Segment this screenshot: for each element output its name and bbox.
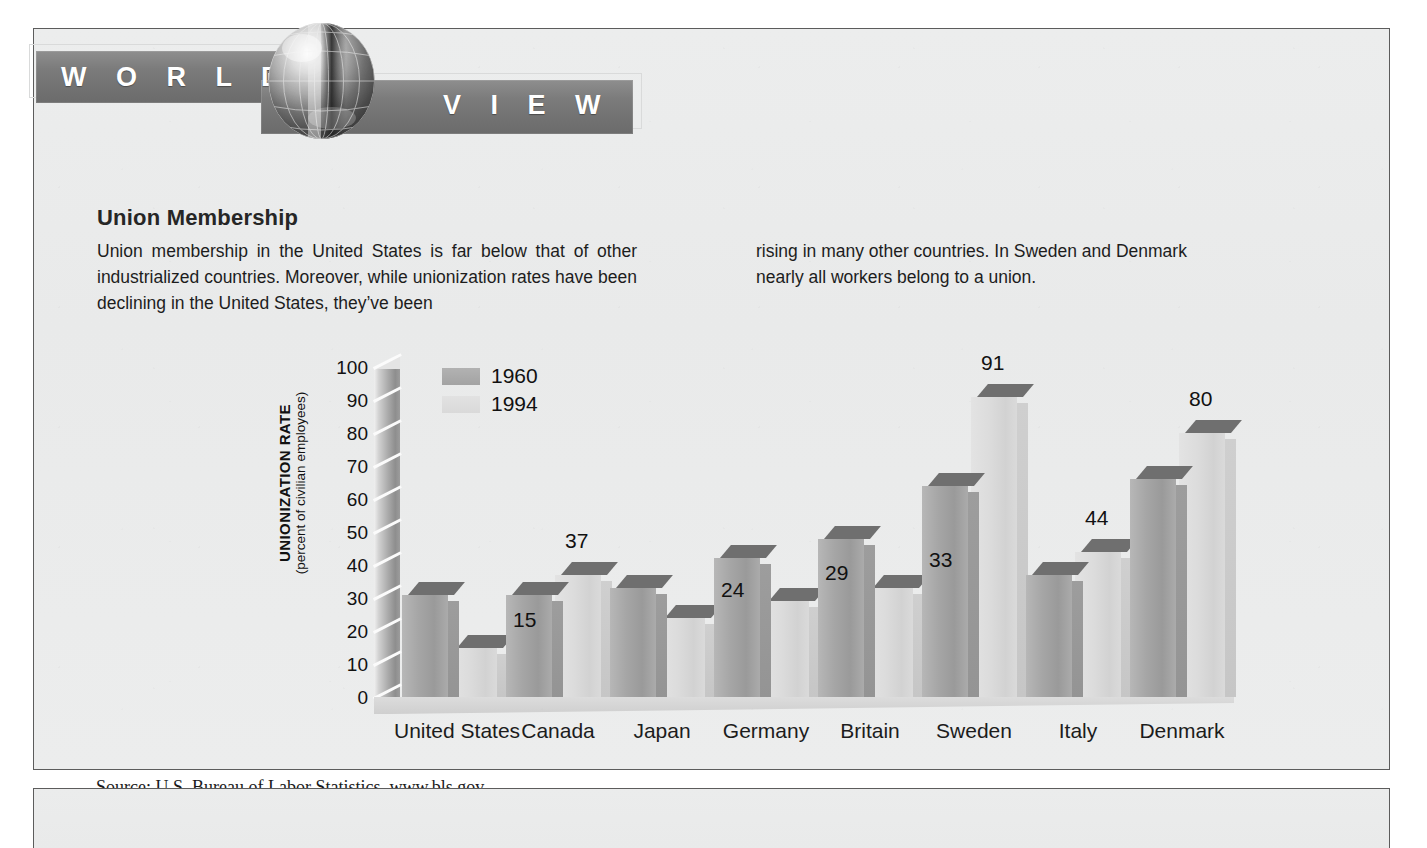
- bar-top-face: [512, 582, 569, 595]
- bar-value-label-germany: 29: [825, 561, 848, 585]
- y-tick-10: 10: [324, 655, 368, 674]
- bar-value-label-denmark: 80: [1189, 387, 1212, 411]
- x-label-japan: Japan: [602, 719, 722, 743]
- page-title: Union Membership: [97, 205, 298, 231]
- masthead-word-view: V I E W: [443, 90, 612, 121]
- y-axis-title-main: UNIONIZATION RATE: [276, 363, 293, 603]
- x-label-denmark: Denmark: [1122, 719, 1242, 743]
- bar-side-face: [448, 601, 459, 697]
- union-membership-chart: UNIONIZATION RATE (percent of civilian e…: [224, 347, 1244, 767]
- bar-sweden-1960: [922, 486, 968, 697]
- bar-value-label-united-states: 15: [513, 608, 536, 632]
- bar-value-label-japan: 24: [721, 578, 744, 602]
- x-label-sweden: Sweden: [914, 719, 1034, 743]
- bar-side-face: [760, 564, 771, 697]
- y-tick-50: 50: [324, 523, 368, 542]
- bar-top-face: [720, 545, 777, 558]
- world-view-masthead: W O R L D V I E W: [0, 0, 660, 135]
- bar-top-face: [824, 526, 881, 539]
- bar-top-face: [457, 635, 514, 648]
- article-column-right: rising in many other countries. In Swede…: [756, 238, 1226, 290]
- bar-group-united-states: 15: [402, 367, 506, 697]
- y-tick-0: 0: [324, 688, 368, 707]
- bar-top-face: [561, 562, 618, 575]
- bar-italy-1960: [1026, 575, 1072, 697]
- x-axis-labels: United StatesCanadaJapanGermanyBritainSw…: [400, 719, 1240, 749]
- bar-group-britain: 33: [818, 367, 922, 697]
- y-axis-tick-labels: 1009080706050403020100: [324, 347, 368, 697]
- bar-top-face: [1081, 539, 1138, 552]
- y-axis-wall-top: [374, 353, 400, 369]
- bar-front-face: [1130, 479, 1176, 697]
- bar-top-face: [616, 575, 673, 588]
- bar-top-face: [769, 588, 826, 601]
- y-tick-40: 40: [324, 556, 368, 575]
- bar-top-face: [1185, 420, 1242, 433]
- bar-front-face: [610, 588, 656, 697]
- bar-top-face: [977, 384, 1034, 397]
- x-label-italy: Italy: [1018, 719, 1138, 743]
- bar-side-face: [552, 601, 563, 697]
- x-label-germany: Germany: [706, 719, 826, 743]
- next-panel: [33, 788, 1390, 848]
- y-axis-title-sub: (percent of civilian employees): [293, 363, 308, 603]
- bar-side-face: [1072, 581, 1083, 697]
- y-tick-90: 90: [324, 391, 368, 410]
- bar-group-japan: 24: [610, 367, 714, 697]
- x-label-britain: Britain: [810, 719, 930, 743]
- bar-group-denmark: 80: [1130, 367, 1234, 697]
- y-tick-20: 20: [324, 622, 368, 641]
- bar-group-sweden: 91: [922, 367, 1026, 697]
- bar-value-label-italy: 44: [1085, 506, 1108, 530]
- chart-floor: [374, 697, 1234, 714]
- bar-side-face: [1225, 439, 1236, 697]
- x-label-united-states: United States: [394, 719, 514, 743]
- y-axis-title: UNIONIZATION RATE (percent of civilian e…: [276, 363, 308, 603]
- bar-united-states-1960: [402, 595, 448, 697]
- y-tick-100: 100: [324, 358, 368, 377]
- bar-value-label-britain: 33: [929, 548, 952, 572]
- bar-front-face: [922, 486, 968, 697]
- bar-value-label-sweden: 91: [981, 351, 1004, 375]
- bar-group-germany: 29: [714, 367, 818, 697]
- bar-side-face: [1176, 485, 1187, 697]
- bar-side-face: [656, 594, 667, 697]
- y-tick-80: 80: [324, 424, 368, 443]
- bar-front-face: [402, 595, 448, 697]
- bar-top-face: [665, 605, 722, 618]
- y-tick-30: 30: [324, 589, 368, 608]
- bar-japan-1960: [610, 588, 656, 697]
- bar-group-canada: 37: [506, 367, 610, 697]
- bar-top-face: [408, 582, 465, 595]
- bar-group-italy: 44: [1026, 367, 1130, 697]
- y-tick-60: 60: [324, 490, 368, 509]
- chart-plot-area: 1537242933914480: [400, 367, 1234, 697]
- world-view-panel: Union Membership Union membership in the…: [33, 28, 1390, 770]
- bar-front-face: [1026, 575, 1072, 697]
- bar-side-face: [864, 545, 875, 697]
- x-label-canada: Canada: [498, 719, 618, 743]
- y-tick-70: 70: [324, 457, 368, 476]
- bar-denmark-1960: [1130, 479, 1176, 697]
- y-axis-wall: [374, 367, 400, 697]
- bar-top-face: [873, 575, 930, 588]
- bar-value-label-canada: 37: [565, 529, 588, 553]
- article-column-left: Union membership in the United States is…: [97, 238, 637, 316]
- bar-side-face: [968, 492, 979, 697]
- globe-icon: [250, 22, 393, 140]
